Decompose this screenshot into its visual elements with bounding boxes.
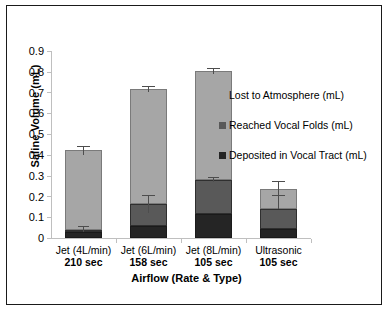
x-category-label-2: Jet (6L/min) 158 sec <box>118 244 179 268</box>
legend-label: Lost to Atmosphere (mL) <box>229 89 344 101</box>
error-bar-cap <box>208 177 219 178</box>
bar-segment-deposited <box>260 229 297 238</box>
legend-swatch-icon <box>219 122 226 129</box>
x-category-line1: Jet (4L/min) <box>56 244 111 256</box>
bar-segment-lost <box>65 150 102 230</box>
x-category-line1: Jet (8L/min) <box>186 244 241 256</box>
bar-segment-lost <box>130 89 167 204</box>
x-category-label-4: Ultrasonic 105 sec <box>248 244 309 268</box>
legend-label: Reached Vocal Folds (mL) <box>229 119 353 131</box>
plot-area: Saline Volume (mL) 0.9 0.8 0.7 0.6 0.5 0… <box>0 0 389 311</box>
y-tick-label-0.7: 0.7 <box>14 88 44 98</box>
x-axis-title: Airflow (Rate & Type) <box>0 272 381 284</box>
bar-segment-deposited <box>65 232 102 238</box>
bar-segment-folds <box>260 209 297 229</box>
y-tick-label-0.4: 0.4 <box>14 150 44 160</box>
x-tickmark <box>311 239 312 243</box>
x-tickmark <box>116 239 117 243</box>
x-category-line2: 210 sec <box>53 256 114 268</box>
bar-jet-6lmin[interactable] <box>130 89 167 238</box>
x-tickmark <box>181 239 182 243</box>
x-category-label-1: Jet (4L/min) 210 sec <box>53 244 114 268</box>
error-bar-cap <box>142 195 155 196</box>
error-bar-cap <box>78 226 89 227</box>
legend-swatch-icon <box>219 152 226 159</box>
legend-swatch-icon <box>219 92 226 99</box>
error-bar-cap <box>77 146 90 147</box>
legend-item-deposited-in-vocal-tract[interactable]: Deposited in Vocal Tract (mL) <box>219 149 367 161</box>
y-tick-label-0.9: 0.9 <box>14 46 44 56</box>
y-tick-label-0.6: 0.6 <box>14 108 44 118</box>
bar-segment-folds <box>195 180 232 214</box>
error-bar-cap <box>207 68 220 69</box>
bar-segment-deposited <box>195 214 232 238</box>
error-bar-stem <box>83 146 84 155</box>
error-bar-cap <box>142 86 155 87</box>
bar-segment-deposited <box>130 226 167 238</box>
x-category-line1: Jet (6L/min) <box>121 244 176 256</box>
error-bar-cap <box>272 195 285 196</box>
y-tick-label-0.8: 0.8 <box>14 67 44 77</box>
bar-jet-4lmin[interactable] <box>65 150 102 238</box>
x-category-line2: 105 sec <box>183 256 244 268</box>
legend-label: Deposited in Vocal Tract (mL) <box>229 149 367 161</box>
y-tick-label-0.2: 0.2 <box>14 192 44 202</box>
legend-item-lost-to-atmosphere[interactable]: Lost to Atmosphere (mL) <box>219 89 344 101</box>
legend-item-reached-vocal-folds[interactable]: Reached Vocal Folds (mL) <box>219 119 353 131</box>
x-category-line2: 158 sec <box>118 256 179 268</box>
error-bar-stem <box>148 195 149 213</box>
x-category-line1: Ultrasonic <box>255 244 302 256</box>
error-bar-cap <box>272 181 285 182</box>
chart-figure: Saline Volume (mL) 0.9 0.8 0.7 0.6 0.5 0… <box>0 0 389 311</box>
y-axis-line <box>51 51 52 239</box>
y-tick-label-0: 0 <box>14 233 44 243</box>
x-category-line2: 105 sec <box>248 256 309 268</box>
x-tickmark <box>246 239 247 243</box>
x-category-label-3: Jet (8L/min) 105 sec <box>183 244 244 268</box>
y-tick-label-0.5: 0.5 <box>14 129 44 139</box>
y-tick-label-0.3: 0.3 <box>14 171 44 181</box>
y-tick-label-0.1: 0.1 <box>14 212 44 222</box>
error-bar-stem <box>278 195 279 209</box>
